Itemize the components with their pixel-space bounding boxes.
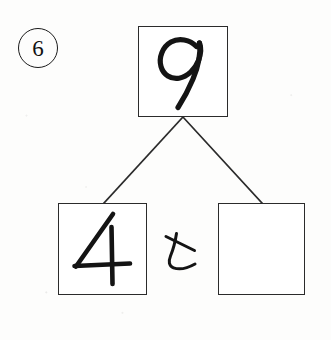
left-part-box[interactable]: 4 bbox=[58, 203, 147, 295]
handwritten-digit-9 bbox=[152, 33, 214, 111]
worksheet-page: 6 9 4 と bbox=[0, 0, 331, 340]
handwritten-digit-4 bbox=[71, 211, 135, 287]
conjunction-character: と bbox=[158, 228, 206, 274]
question-number-badge: 6 bbox=[18, 28, 58, 68]
connector-line-right bbox=[183, 117, 262, 203]
total-box[interactable]: 9 bbox=[138, 26, 228, 117]
hiragana-to-icon bbox=[158, 228, 206, 274]
question-number-label: 6 bbox=[32, 37, 44, 60]
connector-line-left bbox=[104, 117, 183, 203]
right-part-box[interactable] bbox=[218, 203, 305, 295]
